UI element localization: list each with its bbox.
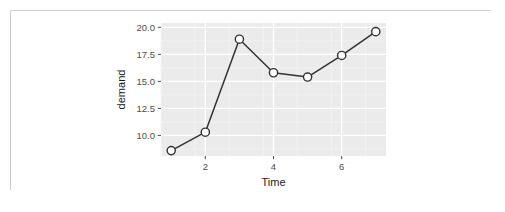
y-axis-tick-label: 17.5 (137, 49, 156, 60)
data-point (201, 128, 209, 136)
y-axis-tick-label: 12.5 (137, 103, 156, 114)
y-axis-tick-label: 20.0 (137, 22, 156, 33)
x-axis-tick-label: 4 (271, 161, 276, 172)
data-point (269, 69, 277, 77)
x-axis-tick-label: 2 (203, 161, 208, 172)
data-point (235, 35, 243, 43)
data-point (303, 73, 311, 81)
plot-area: 20.017.515.012.510.0 246 demand Time (11, 11, 492, 191)
y-axis-title: demand (115, 70, 127, 110)
data-point (167, 146, 175, 154)
y-axis-tick-label: 10.0 (137, 130, 156, 141)
figure-frame: 20.017.515.012.510.0 246 demand Time (10, 10, 491, 190)
y-axis-tick-label: 15.0 (137, 76, 156, 87)
data-point (338, 51, 346, 59)
x-axis-title: Time (261, 176, 285, 188)
line-chart: 20.017.515.012.510.0 246 demand Time (11, 11, 492, 191)
data-point (372, 28, 380, 36)
x-axis-tick-label: 6 (339, 161, 344, 172)
